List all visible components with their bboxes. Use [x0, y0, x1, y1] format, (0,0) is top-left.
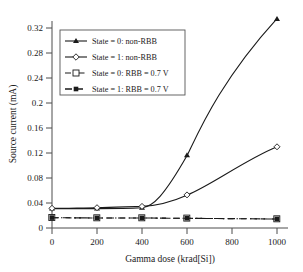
legend-label-2: State = 0: RBB = 0.7 V [92, 69, 169, 78]
series-1-marker-3 [184, 192, 190, 198]
series-3-line [52, 218, 277, 219]
y-tick-label-5: 0.2 [32, 98, 43, 108]
x-axis-title: Gamma dose (krad[Si]) [125, 254, 215, 265]
series-3-marker-2 [140, 216, 145, 221]
series-3-marker-0 [50, 215, 55, 220]
x-tick-label-1: 200 [90, 237, 104, 247]
chart-canvas: 0 0.04 0.08 0.12 0.16 0.2 0.24 0.28 0.32… [0, 0, 303, 272]
legend-label-0: State = 0: non-RBB [92, 37, 157, 46]
y-tick-label-1: 0.04 [27, 198, 43, 208]
chart-figure: 0 0.04 0.08 0.12 0.16 0.2 0.24 0.28 0.32… [0, 0, 303, 272]
series-1-marker-4 [274, 144, 280, 150]
series-3-marker-4 [275, 217, 280, 222]
y-tick-label-0: 0 [39, 223, 44, 233]
x-axis [52, 228, 288, 234]
x-tick-label-5: 1000 [268, 237, 287, 247]
series-0-marker-3 [184, 152, 190, 157]
chart-legend: State = 0: non-RBB State = 1: non-RBB St… [60, 30, 185, 95]
y-axis-title: Source current (mA) [8, 85, 19, 164]
x-tick-label-0: 0 [50, 237, 55, 247]
x-tick-label-3: 600 [180, 237, 194, 247]
y-axis [46, 21, 52, 228]
series-state1-non-rbb [49, 144, 280, 212]
y-tick-labels: 0 0.04 0.08 0.12 0.16 0.2 0.24 0.28 0.32 [27, 23, 43, 233]
series-3-marker-3 [185, 216, 190, 221]
x-tick-label-2: 400 [135, 237, 149, 247]
legend-label-3: State = 1: RBB = 0.7 V [92, 85, 169, 94]
series-1-line [52, 147, 277, 209]
y-tick-label-7: 0.28 [27, 48, 43, 58]
x-tick-label-4: 800 [225, 237, 239, 247]
y-tick-label-4: 0.16 [27, 123, 43, 133]
series-3-marker-1 [95, 216, 100, 221]
legend-marker-open-square-icon [73, 70, 79, 76]
legend-label-1: State = 1: non-RBB [92, 53, 157, 62]
y-tick-label-3: 0.12 [27, 148, 43, 158]
series-0-marker-4 [274, 16, 280, 21]
y-tick-label-6: 0.24 [27, 73, 43, 83]
legend-marker-filled-square-icon [74, 87, 79, 92]
y-tick-label-8: 0.32 [27, 23, 43, 33]
y-tick-label-2: 0.08 [27, 173, 43, 183]
x-tick-labels: 0 200 400 600 800 1000 [50, 237, 287, 247]
